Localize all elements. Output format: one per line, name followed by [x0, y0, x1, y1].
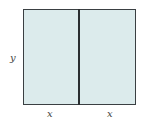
right-width-label: x: [107, 109, 113, 119]
height-label: y: [10, 53, 16, 63]
center-divider-line: [78, 9, 80, 105]
outer-rectangle: [23, 9, 136, 105]
left-width-label: x: [47, 109, 53, 119]
